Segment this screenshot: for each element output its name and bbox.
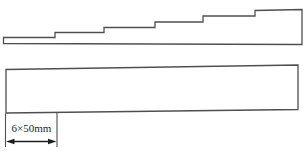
stepped-strip-shape (4, 10, 303, 45)
dimension-arrowhead-left-icon (6, 139, 15, 145)
dimension-arrowhead-right-icon (48, 139, 57, 145)
dimension-label: 6×50mm (5, 122, 58, 134)
figure-canvas: 6×50mm (0, 0, 308, 151)
plain-strip-shape (6, 65, 298, 113)
